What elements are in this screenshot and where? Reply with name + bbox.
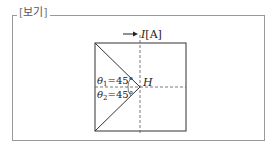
point-label: H [142,76,153,89]
arrowhead-icon [133,32,138,37]
angle2-label: θ2=45° [97,89,134,102]
wire-diagram: I[A] H θ1=45° θ2=45° [0,0,278,150]
current-label: I[A] [140,28,162,41]
